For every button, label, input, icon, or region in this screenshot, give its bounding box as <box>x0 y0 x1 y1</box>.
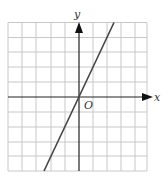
x-axis-label: x <box>154 91 161 104</box>
y-axis-label: y <box>73 8 81 21</box>
coordinate-graph: y x O <box>0 0 164 182</box>
y-axis-arrow-icon <box>75 22 83 33</box>
origin-label: O <box>84 99 93 112</box>
